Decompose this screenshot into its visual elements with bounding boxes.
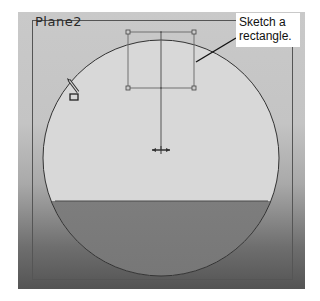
rectangle-handle-br[interactable] xyxy=(192,86,196,90)
rectangle-handle-bl[interactable] xyxy=(126,86,130,90)
rectangle-handle-tr[interactable] xyxy=(192,30,196,34)
plane-name-label: Plane2 xyxy=(35,14,82,29)
rectangle-handle-tl[interactable] xyxy=(126,30,130,34)
callout-line-2: rectangle. xyxy=(239,29,297,43)
instruction-callout: Sketch a rectangle. xyxy=(236,13,300,47)
callout-line-1: Sketch a xyxy=(239,15,297,29)
